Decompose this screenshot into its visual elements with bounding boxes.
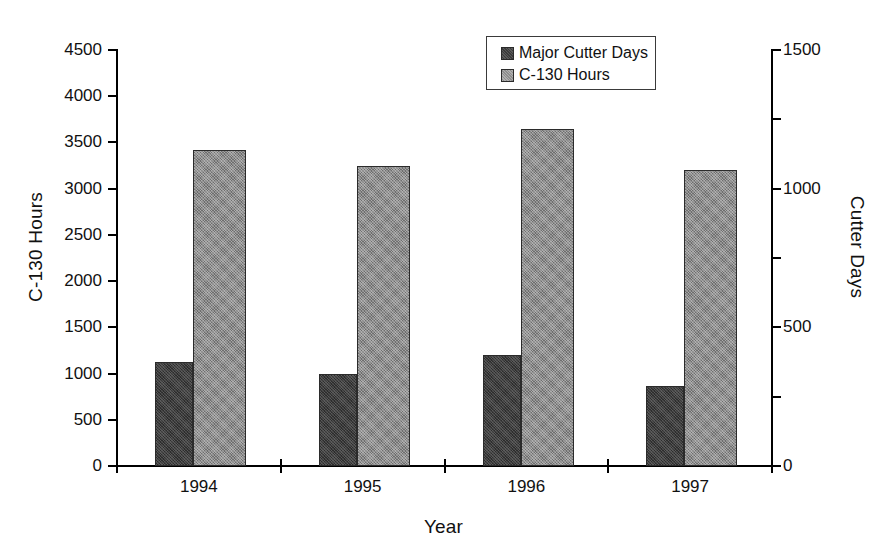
bar-major-cutter-days [483, 355, 521, 466]
x-axis-title: Year [0, 516, 887, 538]
right-axis-title: Cutter Days [846, 167, 868, 327]
bar-group [445, 50, 609, 466]
legend-item-label: C-130 Hours [519, 67, 610, 83]
right-axis-tick [771, 396, 781, 398]
left-axis-tick-label: 3500 [36, 133, 102, 150]
light-swatch-icon [501, 69, 514, 82]
bar-chart: 050010001500200025003000350040004500 050… [0, 0, 887, 554]
x-axis-category-label: 1997 [608, 477, 772, 501]
legend-item-label: Major Cutter Days [519, 45, 648, 61]
x-axis-category-labels: 1994199519961997 [117, 477, 772, 501]
right-axis-tick [771, 118, 781, 120]
bar-major-cutter-days [155, 362, 193, 466]
right-axis-tick [771, 49, 781, 51]
right-axis-tick-label: 500 [783, 318, 843, 335]
right-axis-tick [771, 188, 781, 190]
plot-area [117, 50, 772, 466]
right-axis-tick-label: 1500 [783, 41, 843, 58]
bar-group [281, 50, 445, 466]
bar-group [608, 50, 772, 466]
bar-c130-hours [193, 150, 246, 466]
legend: Major Cutter DaysC-130 Hours [486, 36, 656, 90]
left-axis-title: C-130 Hours [25, 167, 47, 327]
x-axis-category-label: 1996 [445, 477, 609, 501]
left-axis-tick-label: 500 [36, 411, 102, 428]
x-axis-category-label: 1995 [281, 477, 445, 501]
bar-major-cutter-days [319, 374, 357, 466]
left-axis-tick-label: 4500 [36, 41, 102, 58]
bar-c130-hours [684, 170, 737, 466]
bar-c130-hours [521, 129, 574, 466]
right-axis-tick [771, 257, 781, 259]
legend-item: C-130 Hours [501, 64, 655, 86]
right-axis-tick-label: 1000 [783, 180, 843, 197]
left-axis-tick-label: 4000 [36, 87, 102, 104]
x-axis-category-label: 1994 [117, 477, 281, 501]
left-axis-tick-label: 0 [36, 457, 102, 474]
dark-swatch-icon [501, 47, 514, 60]
left-axis-tick-label: 1000 [36, 365, 102, 382]
right-axis-tick [771, 326, 781, 328]
right-axis-tick-label: 0 [783, 457, 843, 474]
bar-c130-hours [357, 166, 410, 466]
right-axis-tick-labels: 050010001500 [783, 0, 843, 554]
bar-major-cutter-days [646, 386, 684, 466]
legend-item: Major Cutter Days [501, 42, 655, 64]
bar-group [117, 50, 281, 466]
